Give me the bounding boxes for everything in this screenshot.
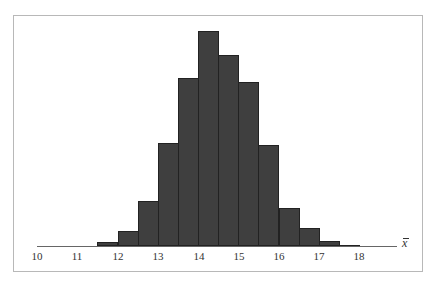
histogram-bar xyxy=(178,78,199,246)
tick-label-15: 15 xyxy=(234,250,245,262)
histogram-bar xyxy=(138,201,159,246)
tick-label-17: 17 xyxy=(314,250,325,262)
tick-label-12: 12 xyxy=(113,250,124,262)
x-bar-overline xyxy=(403,238,409,239)
histogram-bar xyxy=(198,31,219,246)
tick-label-16: 16 xyxy=(274,250,285,262)
tick-label-14: 14 xyxy=(194,250,205,262)
histogram-bar xyxy=(118,231,139,246)
x-axis-line xyxy=(37,246,397,247)
tick-label-13: 13 xyxy=(153,250,164,262)
histogram-bar xyxy=(238,82,259,246)
histogram-bar xyxy=(158,143,179,246)
histogram-bar xyxy=(279,208,300,246)
histogram-bar xyxy=(218,55,239,246)
tick-label-10: 10 xyxy=(32,250,43,262)
tick-label-18: 18 xyxy=(354,250,365,262)
histogram-bar xyxy=(299,228,320,246)
tick-label-11: 11 xyxy=(72,250,83,262)
histogram-plot: 10 11 12 13 14 15 16 17 18 x xyxy=(0,0,437,281)
histogram-bar xyxy=(258,145,279,246)
